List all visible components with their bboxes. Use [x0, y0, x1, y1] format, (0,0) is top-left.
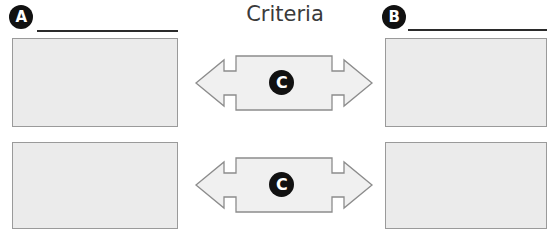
column-b-header-rule[interactable]	[408, 29, 547, 31]
criteria-connector-1[interactable]: C	[192, 50, 376, 116]
column-b-box-1[interactable]	[385, 38, 547, 127]
page-title: Criteria	[225, 2, 345, 26]
circle-letter-b-icon: B	[382, 5, 406, 29]
column-a-box-1[interactable]	[12, 38, 178, 127]
column-a-header-rule[interactable]	[37, 30, 178, 32]
comparison-diagram: A Criteria B C C	[0, 0, 558, 245]
circle-letter-c-icon: C	[269, 172, 294, 197]
column-a-box-2[interactable]	[12, 142, 178, 229]
circle-letter-c-icon: C	[269, 70, 294, 95]
column-b-box-2[interactable]	[385, 142, 547, 229]
criteria-connector-2[interactable]: C	[192, 152, 376, 218]
circle-letter-a-icon: A	[9, 5, 33, 29]
